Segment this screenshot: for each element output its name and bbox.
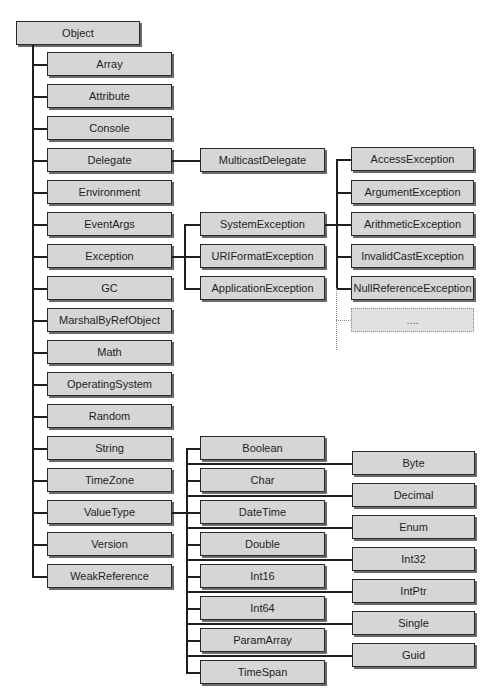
class-name-label: Attribute [89,90,130,102]
class-name-label: GC [101,282,118,294]
connector-line [186,527,352,529]
class-node-timespan: TimeSpan [200,660,325,684]
class-name-label: Single [398,617,429,629]
class-node-multicastdelegate: MulticastDelegate [200,148,325,172]
connector-line [32,64,47,66]
dotted-connector-line [336,320,351,321]
class-name-label: Char [251,474,275,486]
class-name-label: InvalidCastException [361,250,464,262]
class-name-label: Version [91,538,128,550]
class-name-label: .... [406,314,418,326]
class-node-double: Double [200,532,325,556]
class-name-label: Array [96,58,122,70]
connector-line [32,512,47,514]
class-name-label: ApplicationException [211,282,313,294]
connector-line [186,495,352,497]
class-name-label: AccessException [371,153,455,165]
class-name-label: TimeSpan [238,666,288,678]
class-node-array: Array [47,52,172,76]
class-node-boolean: Boolean [200,436,325,460]
class-node-environment: Environment [47,180,172,204]
connector-line [186,623,352,625]
connector-line [325,224,336,226]
connector-line [184,288,200,290]
class-name-label: OperatingSystem [67,378,152,390]
class-node-int64: Int64 [200,596,325,620]
connector-line [336,224,351,226]
class-name-label: Environment [79,186,141,198]
class-node-guid: Guid [352,643,475,667]
connector-line [32,480,47,482]
class-name-label: Int32 [401,553,425,565]
class-node-int16: Int16 [200,564,325,588]
connector-line [32,288,47,290]
class-name-label: Double [245,538,280,550]
connector-line [186,512,200,514]
class-name-label: EventArgs [84,218,135,230]
class-node-nullreferenceexception: NullReferenceException [351,276,474,300]
connector-line [186,576,200,578]
class-node-systemexception: SystemException [200,212,325,236]
class-name-label: Object [62,27,94,39]
class-name-label: TimeZone [85,474,134,486]
connector-line [32,544,47,546]
class-name-label: Console [89,122,129,134]
class-name-label: NullReferenceException [353,282,471,294]
class-name-label: Int16 [250,570,274,582]
class-name-label: Int64 [250,602,274,614]
class-name-label: Delegate [87,154,131,166]
class-name-label: ParamArray [233,634,292,646]
class-name-label: ArgumentException [365,186,461,198]
connector-line [186,559,352,561]
class-node-decimal: Decimal [352,483,475,507]
class-node-math: Math [47,340,172,364]
class-name-label: SystemException [220,218,305,230]
class-node-exception: Exception [47,244,172,268]
connector-line [184,224,200,226]
class-hierarchy-diagram: ObjectArrayAttributeConsoleDelegateEnvir… [0,0,493,698]
connector-line [186,655,352,657]
class-node-string: String [47,436,172,460]
class-name-label: Byte [402,457,424,469]
connector-line [32,256,47,258]
class-node-enum: Enum [352,515,475,539]
connector-line [172,512,186,514]
class-node-random: Random [47,404,172,428]
class-name-label: IntPtr [400,585,426,597]
class-name-label: String [95,442,124,454]
connector-line [336,192,351,194]
class-name-label: Random [89,410,131,422]
connector-line [336,256,351,258]
connector-line [172,256,184,258]
class-name-label: Boolean [242,442,282,454]
class-node-attribute: Attribute [47,84,172,108]
class-node-byte: Byte [352,451,475,475]
connector-line [186,480,200,482]
class-node-weakreference: WeakReference [47,564,172,588]
connector-line [32,96,47,98]
class-node-applicationexception: ApplicationException [200,276,325,300]
class-node-char: Char [200,468,325,492]
connector-line [186,608,200,610]
class-name-label: MarshalByRefObject [59,314,160,326]
class-name-label: WeakReference [70,570,149,582]
class-name-label: MulticastDelegate [219,154,306,166]
class-name-label: Decimal [394,489,434,501]
class-node-arithmeticexception: ArithmeticException [351,212,474,236]
class-node-datetime: DateTime [200,500,325,524]
connector-line [186,591,352,593]
connector-line [32,128,47,130]
connector-line [32,160,47,162]
class-node-timezone: TimeZone [47,468,172,492]
class-node-operatingsystem: OperatingSystem [47,372,172,396]
class-node-gc: GC [47,276,172,300]
connector-line [186,672,200,674]
connector-line [32,576,47,578]
connector-line [32,45,34,576]
more-classes-placeholder: .... [351,308,474,332]
class-node-delegate: Delegate [47,148,172,172]
connector-line [336,159,351,161]
class-name-label: Exception [85,250,133,262]
class-name-label: Math [97,346,121,358]
class-name-label: ArithmeticException [364,218,461,230]
